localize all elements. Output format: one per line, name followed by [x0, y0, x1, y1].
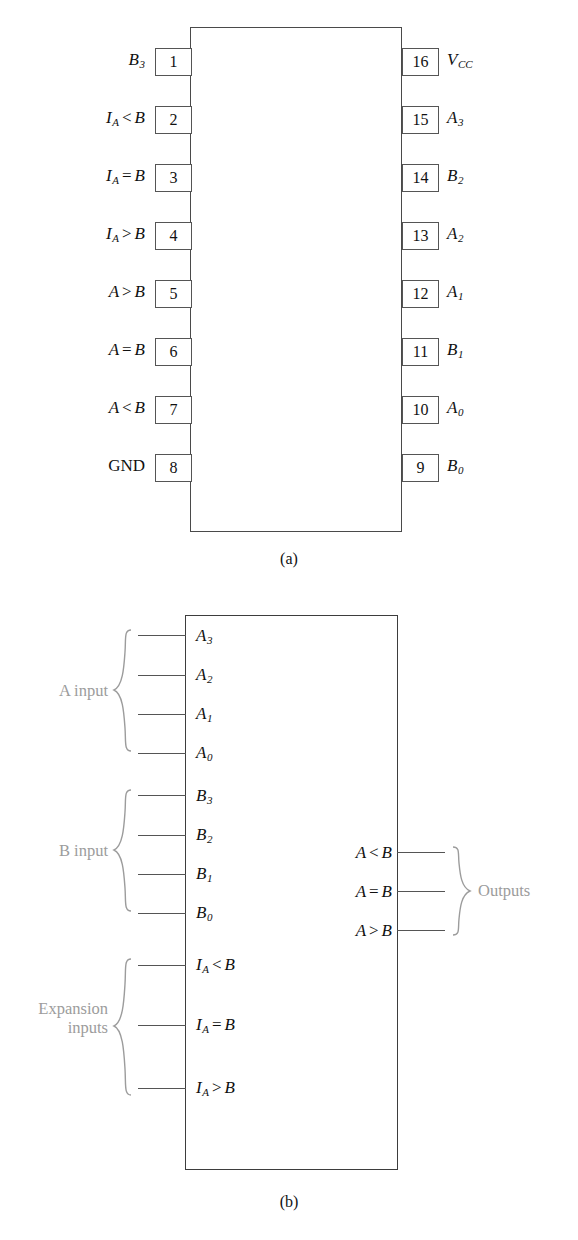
pin-box-3[interactable]: 3	[155, 164, 192, 192]
input-lead-ia-eq-b	[138, 1025, 186, 1026]
input-label-b1: B1	[196, 865, 212, 884]
pin-label-1: B3	[5, 51, 145, 70]
part-a-pin-diagram: B3 IA<B IA=B IA>B A>B A=B A<B GND 1 2 3 …	[0, 0, 578, 590]
input-lead-ia-gt-b	[138, 1088, 186, 1089]
pin-label-7: A<B	[5, 399, 145, 416]
input-lead-a0	[138, 753, 186, 754]
pin-label-13: A2	[447, 225, 463, 244]
input-lead-b3	[138, 795, 186, 796]
group-label-outputs: Outputs	[478, 881, 573, 900]
brace-a-input	[112, 628, 134, 753]
pin-label-11: B1	[447, 341, 463, 360]
pin-label-9: B0	[447, 457, 463, 476]
pin-label-12: A1	[447, 283, 463, 302]
output-lead-a-lt-b	[397, 852, 445, 853]
caption-a: (a)	[0, 550, 578, 568]
input-lead-a1	[138, 714, 186, 715]
pin-box-7[interactable]: 7	[155, 396, 192, 424]
pin-label-16: VCC	[447, 51, 473, 70]
input-lead-b1	[138, 874, 186, 875]
input-label-a0: A0	[196, 744, 212, 763]
input-lead-a3	[138, 635, 186, 636]
pin-box-13[interactable]: 13	[402, 222, 439, 250]
pin-box-5[interactable]: 5	[155, 280, 192, 308]
chip-body-outline	[190, 27, 402, 532]
pin-box-10[interactable]: 10	[402, 396, 439, 424]
output-lead-a-gt-b	[397, 930, 445, 931]
output-label-a-eq-b: A=B	[286, 883, 392, 900]
input-lead-b0	[138, 913, 186, 914]
group-label-expansion-inputs: Expansion inputs	[8, 999, 108, 1038]
pin-box-15[interactable]: 15	[402, 106, 439, 134]
input-label-a2: A2	[196, 666, 212, 685]
pin-label-6: A=B	[5, 341, 145, 358]
input-lead-a2	[138, 675, 186, 676]
pin-label-3: IA=B	[5, 167, 145, 186]
pin-box-12[interactable]: 12	[402, 280, 439, 308]
output-label-a-gt-b: A>B	[286, 922, 392, 939]
pin-label-5: A>B	[5, 283, 145, 300]
pin-box-16[interactable]: 16	[402, 48, 439, 76]
output-lead-a-eq-b	[397, 891, 445, 892]
pin-label-8: GND	[5, 457, 145, 474]
pin-box-2[interactable]: 2	[155, 106, 192, 134]
pin-label-2: IA<B	[5, 109, 145, 128]
input-lead-ia-lt-b	[138, 965, 186, 966]
pin-box-9[interactable]: 9	[402, 454, 439, 482]
brace-expansion-inputs	[112, 957, 134, 1097]
pin-box-6[interactable]: 6	[155, 338, 192, 366]
pin-box-14[interactable]: 14	[402, 164, 439, 192]
group-label-a-input: A input	[20, 681, 108, 700]
caption-b: (b)	[0, 1193, 578, 1211]
input-label-ia-gt-b: IA>B	[196, 1079, 235, 1098]
part-b-block-symbol: A input A3 A2 A1 A0 B input B3 B2 B1 B0 …	[0, 595, 578, 1240]
brace-b-input	[112, 788, 134, 913]
pin-box-8[interactable]: 8	[155, 454, 192, 482]
pin-label-4: IA>B	[5, 225, 145, 244]
pin-box-11[interactable]: 11	[402, 338, 439, 366]
input-label-a3: A3	[196, 627, 212, 646]
input-label-b3: B3	[196, 787, 212, 806]
pin-label-14: B2	[447, 167, 463, 186]
pin-box-1[interactable]: 1	[155, 48, 192, 76]
output-label-a-lt-b: A<B	[286, 844, 392, 861]
brace-outputs	[450, 845, 472, 937]
pin-box-4[interactable]: 4	[155, 222, 192, 250]
pin-label-10: A0	[447, 399, 463, 418]
input-label-ia-eq-b: IA=B	[196, 1016, 235, 1035]
pin-label-15: A3	[447, 109, 463, 128]
input-label-b0: B0	[196, 904, 212, 923]
input-lead-b2	[138, 835, 186, 836]
input-label-ia-lt-b: IA<B	[196, 956, 235, 975]
input-label-b2: B2	[196, 826, 212, 845]
input-label-a1: A1	[196, 705, 212, 724]
group-label-b-input: B input	[20, 841, 108, 860]
